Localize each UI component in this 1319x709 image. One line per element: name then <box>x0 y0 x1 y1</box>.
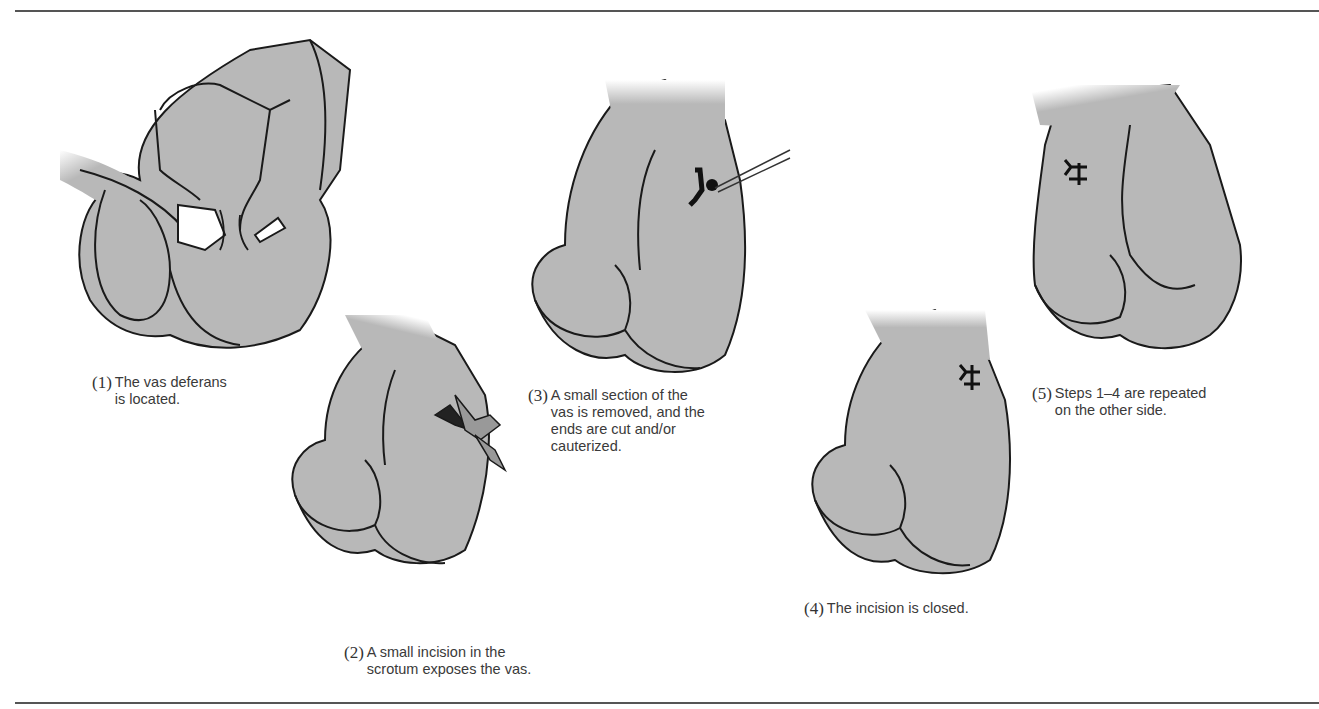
figure-step-1 <box>60 30 360 360</box>
figure-step-2 <box>285 315 515 570</box>
caption-line: The vas deferans <box>115 374 227 390</box>
caption-step-2: (2)A small incision in thescrotum expose… <box>344 644 531 678</box>
caption-line: A small section of the <box>551 387 688 403</box>
hand-pinching-scrotum-icon <box>60 30 360 360</box>
sutures-icon <box>805 310 1035 580</box>
figure-step-4 <box>805 310 1035 580</box>
figure-step-5 <box>1030 85 1250 355</box>
step-number: (1) <box>92 373 112 392</box>
caption-step-5: (5)Steps 1–4 are repeatedon the other si… <box>1032 385 1206 419</box>
figure-step-3 <box>525 80 795 380</box>
caption-step-1: (1)The vas deferansis located. <box>92 374 227 408</box>
caption-line: vas is removed, and the <box>551 404 705 420</box>
caption-line: The incision is closed. <box>827 600 969 616</box>
scissors-incision-icon <box>285 315 515 570</box>
step-number: (5) <box>1032 384 1052 403</box>
caption-line: A small incision in the <box>367 644 506 660</box>
step-number: (3) <box>528 386 548 405</box>
caption-line: is located. <box>115 391 180 407</box>
caption-line: Steps 1–4 are repeated <box>1055 385 1207 401</box>
sutures-icon <box>1030 85 1250 355</box>
step-number: (4) <box>804 599 824 618</box>
caption-line: ends are cut and/or <box>551 421 676 437</box>
caption-line: scrotum exposes the vas. <box>367 661 531 677</box>
top-rule <box>15 10 1319 12</box>
step-number: (2) <box>344 643 364 662</box>
caption-step-4: (4)The incision is closed. <box>804 600 969 618</box>
caption-line: cauterized. <box>551 438 622 454</box>
caption-step-3: (3)A small section of thevas is removed,… <box>528 387 705 455</box>
forceps-cauterize-icon <box>525 80 795 380</box>
caption-line: on the other side. <box>1055 402 1167 418</box>
bottom-rule <box>15 702 1319 704</box>
